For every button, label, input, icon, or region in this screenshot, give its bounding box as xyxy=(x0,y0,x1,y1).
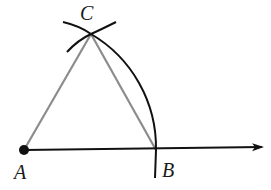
arc-extension-top xyxy=(91,22,116,34)
arc-crossing-lower xyxy=(67,34,91,52)
side-bc xyxy=(91,34,156,150)
label-a: A xyxy=(12,161,27,183)
label-b: B xyxy=(162,159,174,181)
label-c: C xyxy=(80,2,94,24)
ray-ab xyxy=(24,147,262,150)
arc-centered-a xyxy=(91,34,156,178)
side-ac xyxy=(24,34,91,150)
point-a xyxy=(19,145,29,155)
diagram-canvas: A B C xyxy=(0,0,271,190)
